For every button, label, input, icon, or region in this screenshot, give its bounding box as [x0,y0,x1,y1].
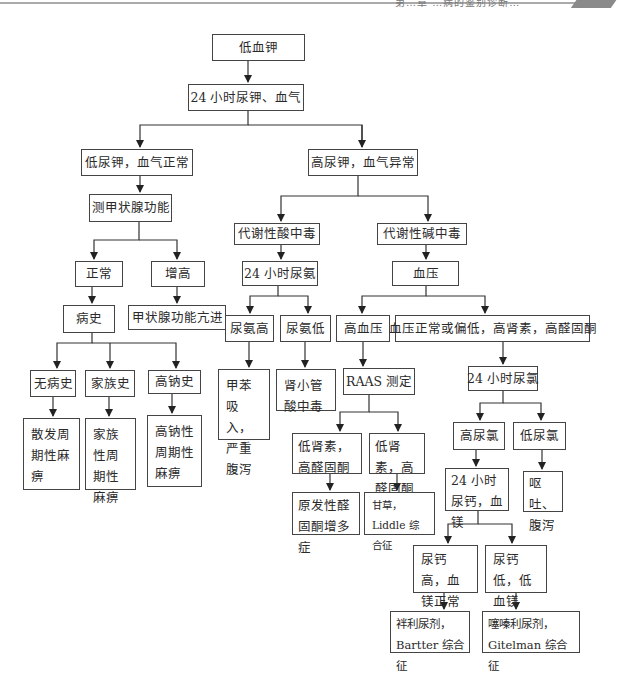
node-low-urine-ammonia: 尿氨低 [280,315,331,342]
node-24h-urine-ammonia: 24 小时尿氨 [242,261,318,286]
node-elevated: 增高 [151,261,205,287]
node-metabolic-alkalosis: 代谢性碱中毒 [377,223,467,245]
node-blood-pressure: 血压 [392,261,459,286]
node-loop-diuretic-bartter: 袢利尿剂，Bartter 综合征 [390,611,470,653]
node-familial-periodic-paralysis: 家族性周期性麻痹 [85,418,136,490]
node-licorice-liddle: 甘草，Liddle 综合征 [364,492,435,535]
node-history: 病史 [63,305,115,333]
node-low-renin-high-aldo-1: 低肾素，高醛固酮 [292,433,362,474]
node-metabolic-acidosis: 代谢性酸中毒 [234,223,320,245]
node-normal-low-bp-high-renin-aldo: 血压正常或偏低，高肾素，高醛固酮 [395,315,590,342]
node-hypertension: 高血压 [336,315,390,342]
node-high-urine-ca-normal-mg: 尿钙高，血镁正常 [413,545,478,593]
node-hypernatremic-periodic-paralysis: 高钠性周期性麻痹 [147,415,202,487]
node-vomiting-diarrhea: 呕吐、腹泻 [523,471,563,512]
node-thyroid-test: 测甲状腺功能 [89,194,172,222]
node-raas-test: RAAS 测定 [343,368,415,395]
node-sporadic-periodic-paralysis: 散发周期性麻痹 [23,418,80,490]
node-hyperthyroidism: 甲状腺功能亢进 [128,305,226,330]
node-low-urine-chloride: 低尿氯 [513,422,566,450]
node-low-urine-k-normal-gas: 低尿钾，血气正常 [81,149,193,176]
node-no-history: 无病史 [30,370,76,397]
node-low-urine-ca-low-mg: 尿钙低，低血镁 [485,545,547,593]
node-high-urine-ammonia: 尿氨高 [225,315,274,342]
node-hypokalemia: 低血钾 [212,34,305,61]
node-renal-tubular-acidosis: 肾小管酸中毒 [276,369,336,411]
node-24h-urine-chloride: 24 小时尿氯 [468,366,538,391]
node-high-sodium-history: 高钠史 [148,370,201,394]
node-primary-aldosteronism: 原发性醛固酮增多症 [292,492,360,535]
node-thiazide-gitelman: 噻嗪利尿剂，Gitelman 综合征 [482,611,580,653]
node-low-renin-high-aldo-2: 低肾素，高醛固酮 [369,433,425,474]
node-high-urine-chloride: 高尿氯 [453,422,505,450]
node-family-history: 家族史 [85,370,135,397]
node-24h-urine-ca-blood-mg: 24 小时尿钙，血镁 [445,468,509,511]
node-24h-urine-k-blood-gas: 24 小时尿钾、血气 [188,84,304,111]
node-normal: 正常 [75,261,123,287]
node-high-urine-k-abnormal-gas: 高尿钾，血气异常 [308,149,418,176]
node-toluene-severe-diarrhea: 甲苯吸入，严重腹泻 [218,369,270,440]
